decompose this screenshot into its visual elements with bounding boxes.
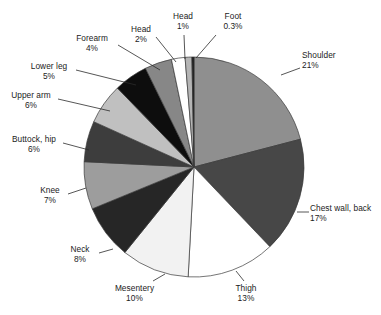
slice-label-knee-name: Knee [33,185,67,195]
slice-label-mesentery-percent: 10% [107,293,162,303]
pie-chart: Shoulder 21% Chest wall, back 17% Thigh … [0,0,381,315]
leader-line-forearm [118,45,160,70]
slice-label-buttock-hip: Buttock, hip 6% [5,134,63,154]
slice-label-forearm-name: Forearm [67,33,117,43]
leader-line-neck [99,249,113,253]
slice-label-neck-percent: 8% [63,254,97,264]
slice-label-buttock-hip-percent: 6% [5,144,63,154]
slice-label-lower-leg-percent: 5% [22,71,76,81]
slice-label-chest-wall-back: Chest wall, back 17% [310,203,371,223]
slice-label-head-1-percent: 1% [166,21,200,31]
slice-label-head-1-name: Head [166,11,200,21]
slice-label-lower-leg-name: Lower leg [22,61,76,71]
slice-label-foot: Foot 0.3% [213,11,253,31]
slice-label-foot-percent: 0.3% [213,21,253,31]
slice-label-neck-name: Neck [63,244,97,254]
slice-label-forearm: Forearm 4% [67,33,117,53]
leader-line-foot [196,35,216,58]
pie-slices-group [84,57,304,277]
leader-line-shoulder [281,68,300,75]
slice-label-head-2: Head 2% [124,24,158,44]
slice-label-upper-arm-percent: 6% [4,100,58,110]
slice-label-foot-name: Foot [213,11,253,21]
leader-line-lowerleg [76,70,136,85]
slice-label-head-2-name: Head [124,24,158,34]
slice-label-head-1: Head 1% [166,11,200,31]
leader-line-head2 [156,37,176,62]
slice-label-mesentery-name: Mesentery [107,283,162,293]
leader-line-head1 [184,35,185,59]
slice-label-chest-wall-back-name: Chest wall, back [310,203,371,213]
slice-label-shoulder-name: Shoulder [302,50,336,60]
slice-label-shoulder: Shoulder 21% [302,50,336,70]
leader-line-upperarm [58,99,110,111]
slice-label-knee: Knee 7% [33,185,67,205]
leader-line-knee [68,188,86,194]
leader-line-mesentery [153,274,165,281]
slice-label-chest-wall-back-percent: 17% [310,213,371,223]
slice-label-mesentery: Mesentery 10% [107,283,162,303]
slice-label-forearm-percent: 4% [67,43,117,53]
slice-label-neck: Neck 8% [63,244,97,264]
slice-label-lower-leg: Lower leg 5% [22,61,76,81]
slice-label-upper-arm: Upper arm 6% [4,90,58,110]
slice-label-thigh-name: Thigh [226,283,266,293]
slice-label-thigh: Thigh 13% [226,283,266,303]
pie-chart-canvas [0,0,381,315]
leader-line-buttock [63,143,89,150]
slice-label-upper-arm-name: Upper arm [4,90,58,100]
slice-label-head-2-percent: 2% [124,34,158,44]
leader-line-thigh [236,271,244,281]
slice-label-shoulder-percent: 21% [302,60,336,70]
slice-label-thigh-percent: 13% [226,293,266,303]
slice-label-buttock-hip-name: Buttock, hip [5,134,63,144]
slice-label-knee-percent: 7% [33,195,67,205]
